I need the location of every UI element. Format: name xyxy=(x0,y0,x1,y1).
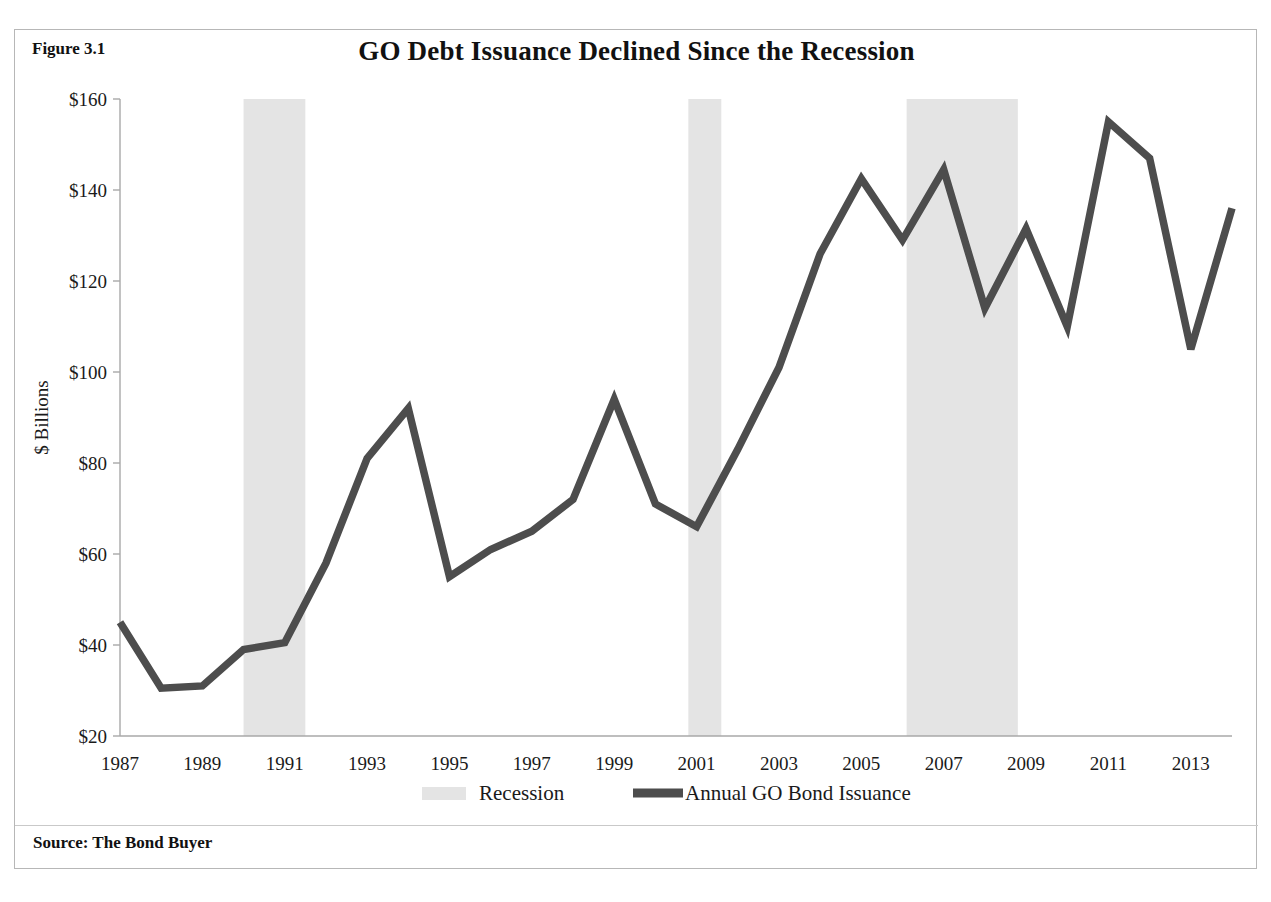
x-axis-tick-label: 1989 xyxy=(183,753,221,774)
chart-legend: RecessionAnnual GO Bond Issuance xyxy=(422,781,911,805)
y-axis-tick-label: $20 xyxy=(79,726,108,747)
x-axis-tick-label: 2003 xyxy=(760,753,798,774)
x-axis-tick-label: 2009 xyxy=(1007,753,1045,774)
y-axis-tick-label: $40 xyxy=(79,635,108,656)
x-axis-tick-label: 1999 xyxy=(595,753,633,774)
y-axis-title: $ Billions xyxy=(31,380,52,454)
x-axis-tick-label: 2011 xyxy=(1090,753,1127,774)
source-divider xyxy=(15,825,1258,826)
x-axis-tick-label: 2001 xyxy=(678,753,716,774)
legend-label-annual-go-bond-issuance: Annual GO Bond Issuance xyxy=(685,781,911,805)
y-axis-tick-label: $160 xyxy=(69,89,107,110)
x-axis-tick-label: 1997 xyxy=(513,753,551,774)
x-axis-tick-label: 1993 xyxy=(348,753,386,774)
x-axis-tick-label: 2005 xyxy=(842,753,880,774)
x-axis-tick-label: 1995 xyxy=(430,753,468,774)
line-chart: $20$40$60$80$100$120$140$160 19871989199… xyxy=(15,30,1258,830)
y-axis-tick-label: $100 xyxy=(69,362,107,383)
y-axis-title-label: $ Billions xyxy=(31,380,52,454)
recession-band-group xyxy=(244,99,1018,736)
y-axis-tick-label: $60 xyxy=(79,544,108,565)
legend-label-recession: Recession xyxy=(479,781,565,805)
y-axis-tick-group: $20$40$60$80$100$120$140$160 xyxy=(69,89,120,747)
y-axis-tick-label: $120 xyxy=(69,271,107,292)
x-axis-tick-label: 1991 xyxy=(266,753,304,774)
x-axis-tick-label: 1987 xyxy=(101,753,139,774)
y-axis-tick-label: $80 xyxy=(79,453,108,474)
scan-artifact-text xyxy=(0,0,1271,22)
source-note: Source: The Bond Buyer xyxy=(33,833,212,853)
figure-frame: Figure 3.1 GO Debt Issuance Declined Sin… xyxy=(14,29,1257,869)
x-axis-tick-label: 2007 xyxy=(925,753,963,774)
x-axis-tick-label: 2013 xyxy=(1172,753,1210,774)
recession-band xyxy=(688,99,721,736)
recession-band xyxy=(244,99,306,736)
legend-swatch-recession xyxy=(422,787,466,800)
recession-band xyxy=(907,99,1018,736)
y-axis-tick-label: $140 xyxy=(69,180,107,201)
x-axis-tick-group: 1987198919911993199519971999200120032005… xyxy=(101,753,1210,774)
